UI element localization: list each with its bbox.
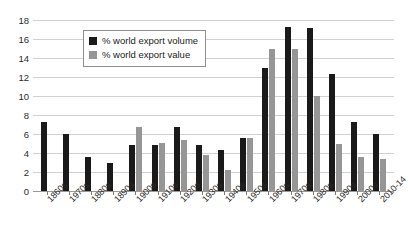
bar [41,122,47,191]
bar [181,140,187,191]
x-axis-label-slot: 1890s [103,195,125,243]
x-axis-label-slot: 2000s [347,195,369,243]
legend-item-volume: % world export volume [89,34,198,48]
x-axis-label-slot: 1940s [214,195,236,243]
bar-group [36,20,58,191]
bar [314,96,320,191]
x-axis-label-slot: 1860s [36,195,58,243]
x-axis-label-slot: 1970s [58,195,80,243]
legend-swatch-icon-value [89,51,97,59]
x-axis-label-slot: 1930s [191,195,213,243]
y-axis-tick-label: 10 [3,92,29,101]
x-axis-label-slot: 1960s [258,195,280,243]
chart-legend: % world export volume % world export val… [83,30,206,67]
bar-group [258,20,280,191]
bar-group [236,20,258,191]
y-axis-tick-label: 0 [3,187,29,196]
y-axis-tick-label: 8 [3,111,29,120]
y-axis-tick-labels: 181614121086420 [0,20,29,191]
bar [247,138,253,191]
bar [358,157,364,191]
y-axis-tick-label: 12 [3,73,29,82]
x-axis-label-slot: 1920s [169,195,191,243]
x-axis-label-slot: 1910s [147,195,169,243]
y-axis-tick-label: 6 [3,130,29,139]
bar-group [369,20,391,191]
legend-label-value: % world export value [102,50,190,60]
x-axis-label-slot: 1970s [280,195,302,243]
legend-swatch-icon-volume [89,37,97,45]
y-axis-tick-label: 2 [3,168,29,177]
bar [336,144,342,192]
y-axis-tick-label: 16 [3,35,29,44]
bar-group [214,20,236,191]
y-axis-tick-label: 4 [3,149,29,158]
bar-group [302,20,324,191]
bar-group [280,20,302,191]
bar [262,68,268,191]
bar [292,49,298,192]
bar [159,143,165,191]
bar [269,49,275,191]
y-axis-tick-label: 18 [3,16,29,25]
legend-item-value: % world export value [89,48,198,62]
bar [380,159,386,191]
x-axis-label-slot: 1950s [236,195,258,243]
bar-group [58,20,80,191]
legend-label-volume: % world export volume [102,36,198,46]
bar-group [347,20,369,191]
x-axis-label-slot: 1990s [324,195,346,243]
x-axis-label-slot: 1880s [80,195,102,243]
bar [203,155,209,191]
bar-group [324,20,346,191]
bar [285,27,291,191]
y-axis-tick-label: 14 [3,54,29,63]
bar [329,74,335,191]
bar [307,28,313,191]
x-axis-label-slot: 1980s [302,195,324,243]
x-axis-tick-labels: 1860s1970s1880s1890s1900s1910s1920s1930s… [33,195,394,243]
x-axis-label-slot: 1900s [125,195,147,243]
x-axis-label-slot: 2010-14 [369,195,391,243]
bar [136,127,142,191]
